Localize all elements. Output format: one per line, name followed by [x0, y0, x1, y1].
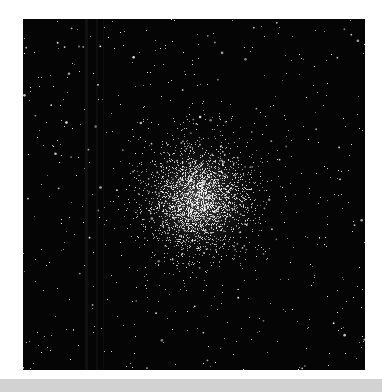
bottom-strip [0, 379, 382, 392]
starfield-canvas [23, 19, 365, 370]
star-cluster-photo [23, 19, 365, 370]
